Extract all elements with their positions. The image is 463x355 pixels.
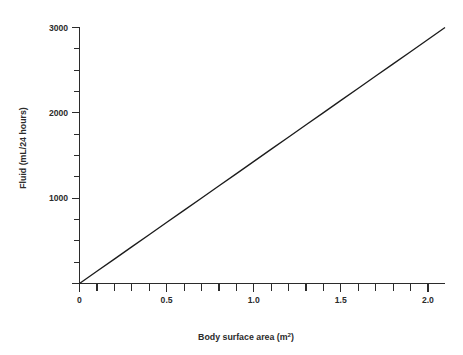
x-axis-tick-labels: 0 0.5 1.0 1.5 2.0 [77, 295, 434, 305]
y-tick-label-1000: 1000 [49, 193, 68, 203]
x-tick-label-0-5: 0.5 [161, 295, 173, 305]
y-axis-label: Fluid (mL/24 hours) [18, 107, 28, 189]
y-axis-tick-labels: 3000 2000 1000 [49, 23, 68, 204]
x-tick-label-1-0: 1.0 [248, 295, 260, 305]
x-tick-label-2-0: 2.0 [422, 295, 434, 305]
x-tick-label-1-5: 1.5 [335, 295, 347, 305]
x-tick-label-0: 0 [77, 295, 82, 305]
y-axis-minor-ticks [74, 49, 80, 262]
y-tick-label-3000: 3000 [49, 23, 68, 33]
chart-container: Fluid (mL/24 hours) 3000 2000 [0, 0, 463, 355]
line-chart: Fluid (mL/24 hours) 3000 2000 [0, 0, 463, 355]
x-axis-label-tail: ) [291, 332, 294, 342]
y-tick-label-2000: 2000 [49, 108, 68, 118]
x-axis-label: Body surface area (m2) [198, 331, 294, 342]
x-axis-label-main: Body surface area (m [198, 332, 288, 342]
data-series-line [80, 28, 446, 284]
